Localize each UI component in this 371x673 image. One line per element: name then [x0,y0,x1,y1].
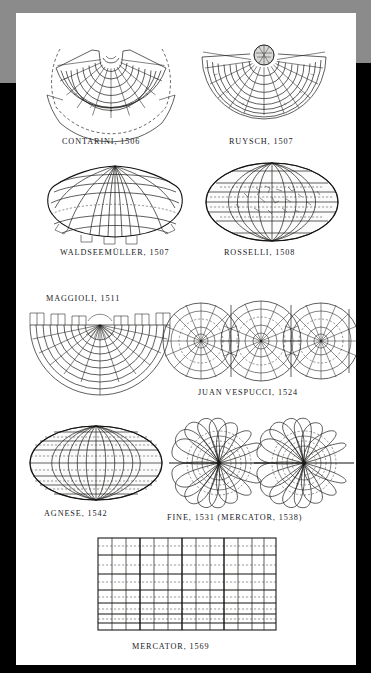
figure-agnese [26,419,166,507]
caption-mercator: MERCATOR, 1569 [132,642,210,651]
caption-rosselli: ROSSELLI, 1508 [224,248,295,257]
caption-juan-vespucci: JUAN VESPUCCI, 1524 [198,388,298,397]
figure-maggioli [20,311,180,389]
figure-rosselli [202,158,342,246]
figure-contarini [30,23,190,138]
caption-fine-mercator: FINE, 1531 (MERCATOR, 1538) [167,513,302,522]
figure-juan-vespucci [171,299,351,383]
figure-mercator [92,534,282,634]
scanned-page: CONTARINI, 1506 [16,13,356,665]
figure-waldseemuller [40,158,190,246]
caption-agnese: AGNESE, 1542 [44,509,108,518]
figure-ruysch [184,23,344,135]
caption-contarini: CONTARINI, 1506 [62,137,140,146]
caption-waldseemuller: WALDSEEMÜLLER, 1507 [60,248,169,257]
caption-ruysch: RUYSCH, 1507 [229,137,293,146]
caption-maggioli: MAGGIOLI, 1511 [46,294,120,303]
figure-fine-mercator [164,413,354,513]
